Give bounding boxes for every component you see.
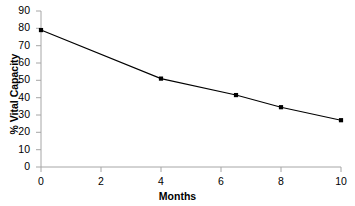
x-tick-label-10: 10 <box>329 176 353 187</box>
x-tick-label-6: 6 <box>209 176 233 187</box>
data-point-marker <box>159 77 163 81</box>
x-tick-label-2: 2 <box>89 176 113 187</box>
data-point-marker <box>339 118 343 122</box>
data-point-marker <box>234 93 238 97</box>
x-tick-label-0: 0 <box>29 176 53 187</box>
data-point-marker <box>39 28 43 32</box>
data-series-markers <box>39 28 343 122</box>
x-axis-ticks <box>41 167 341 172</box>
y-tick-label-80: 80 <box>6 22 30 33</box>
y-tick-label-90: 90 <box>6 5 30 16</box>
chart-container: 90 80 70 60 50 40 30 20 10 0 0 2 4 6 8 1… <box>0 0 355 206</box>
data-series-line <box>41 30 341 120</box>
x-tick-label-8: 8 <box>269 176 293 187</box>
x-tick-label-4: 4 <box>149 176 173 187</box>
y-axis-ticks <box>36 11 41 167</box>
y-tick-label-0: 0 <box>6 161 30 172</box>
chart-plot-area <box>0 0 355 206</box>
x-axis-title: Months <box>0 190 355 202</box>
y-axis-title: % Vital Capacity <box>8 34 20 154</box>
data-point-marker <box>279 105 283 109</box>
